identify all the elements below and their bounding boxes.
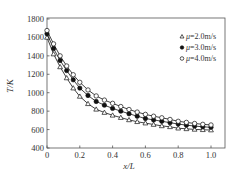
legend-label: μ=4.0m/s [185,54,216,63]
filled-circle-marker [135,114,139,118]
x-tick-label: 0.8 [173,150,184,160]
open-circle-marker [110,101,114,105]
open-circle-marker [94,94,98,98]
y-tick-label: 1800 [27,14,44,24]
filled-circle-marker [86,93,90,97]
legend-item: μ=2.0m/s [180,32,216,41]
temperature-chart: 40060080010001200140016001800 00.20.40.6… [0,0,240,184]
filled-circle-marker [94,99,98,103]
triangle-marker [58,64,63,68]
legend-item: μ=3.0m/s [180,43,216,52]
y-tick-label: 1400 [27,51,44,61]
y-tick-label: 1000 [27,88,44,98]
triangle-marker [94,107,99,111]
filled-circle-marker [127,112,131,116]
open-circle-marker [58,54,62,58]
y-tick-label: 1600 [27,32,44,42]
y-tick-label: 600 [31,125,44,135]
x-tick-label: 0.6 [140,150,151,160]
open-circle-marker [176,119,180,123]
filled-circle-marker [102,103,106,107]
open-circle-marker [64,64,68,68]
x-tick-label: 0.4 [107,150,118,160]
filled-circle-marker [110,106,114,110]
filled-circle-marker [64,68,68,72]
filled-circle-marker [78,86,82,90]
open-circle-marker [127,107,131,111]
triangle-marker [71,86,76,90]
open-circle-marker [51,42,55,46]
x-tick-label: 0.2 [74,150,85,160]
x-tick-label: 0 [45,150,49,160]
filled-circle-marker [180,46,184,50]
y-axis-label: T/K [5,78,15,93]
x-axis-label: x/L [122,161,135,171]
open-circle-marker [151,114,155,118]
y-tick-label: 400 [31,143,44,153]
open-circle-marker [168,117,172,121]
open-circle-marker [71,73,75,77]
open-circle-marker [102,98,106,102]
filled-circle-marker [143,116,147,120]
open-circle-marker [192,121,196,125]
filled-circle-marker [119,109,123,113]
legend: μ=2.0m/sμ=3.0m/sμ=4.0m/s [180,32,216,63]
open-circle-marker [86,88,90,92]
legend-label: μ=3.0m/s [185,43,216,52]
y-tick-label: 800 [31,106,44,116]
open-circle-marker [160,116,164,120]
legend-label: μ=2.0m/s [185,32,216,41]
open-circle-marker [143,112,147,116]
open-circle-marker [78,80,82,84]
open-circle-marker [119,104,123,108]
open-circle-marker [184,120,188,124]
open-circle-marker [201,122,205,126]
legend-item: μ=4.0m/s [180,54,216,63]
open-circle-marker [180,57,184,61]
open-circle-marker [209,123,213,127]
filled-circle-marker [71,78,75,82]
open-circle-marker [45,28,49,32]
x-tick-label: 1.0 [206,150,217,160]
triangle-marker [64,76,69,80]
triangle-marker [180,35,184,38]
y-tick-label: 1200 [27,69,44,79]
open-circle-marker [135,110,139,114]
